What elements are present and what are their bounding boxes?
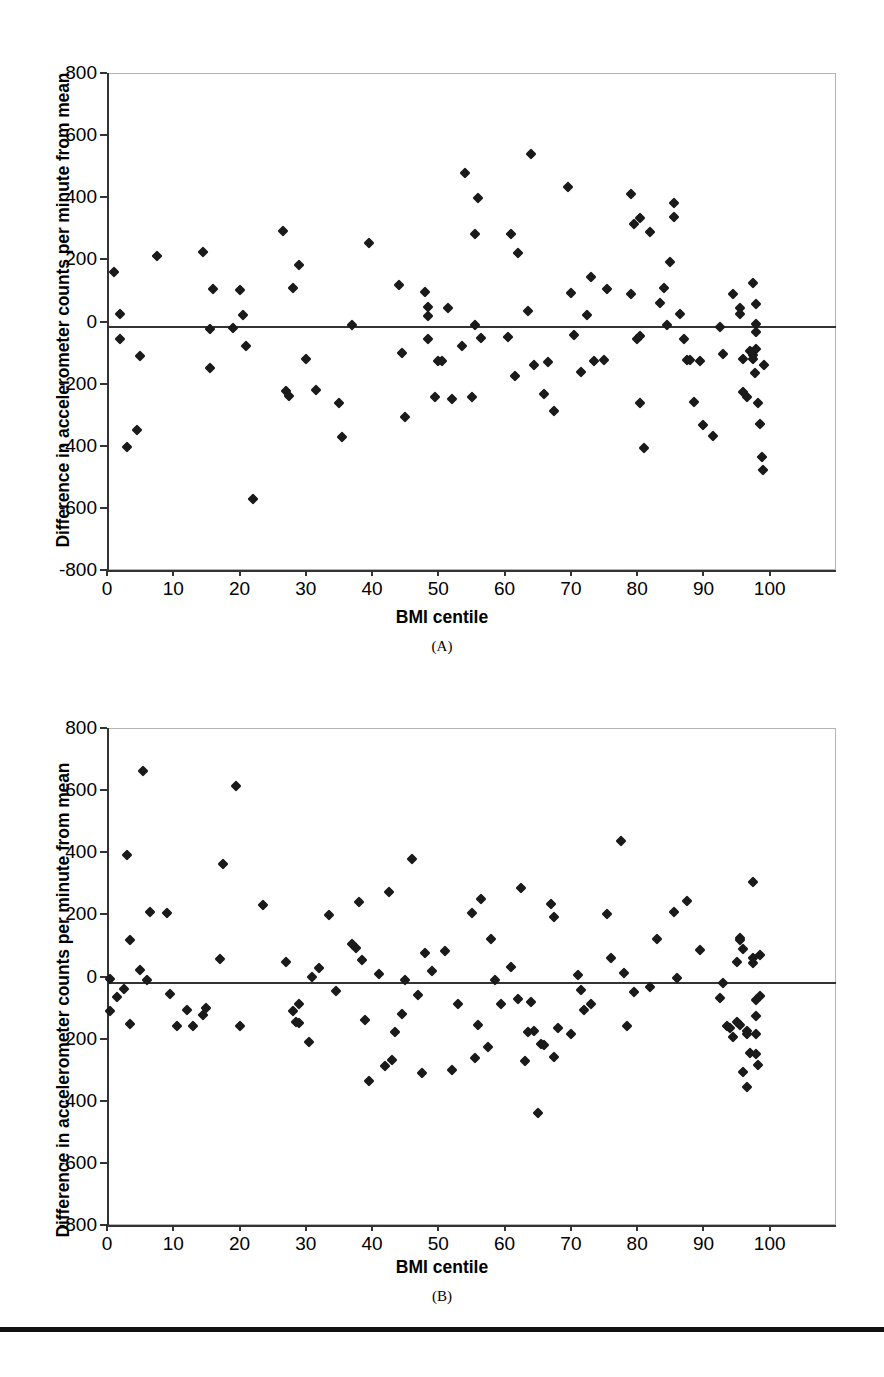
x-axis-tick-label: 90 bbox=[693, 578, 714, 600]
panel-a-x-axis-label: BMI centile bbox=[0, 607, 884, 628]
x-axis-tick-label: 50 bbox=[428, 1233, 449, 1255]
x-axis-tick bbox=[769, 1225, 771, 1231]
y-axis-tick bbox=[100, 445, 107, 447]
x-axis-tick-label: 100 bbox=[754, 578, 786, 600]
x-axis-tick-label: 60 bbox=[494, 578, 515, 600]
y-axis-tick-label: -400 bbox=[12, 435, 97, 457]
x-axis-tick-label: 70 bbox=[560, 578, 581, 600]
y-axis-tick bbox=[100, 258, 107, 260]
x-axis-tick-label: 0 bbox=[102, 578, 113, 600]
y-axis-tick bbox=[100, 1162, 107, 1164]
y-axis-tick bbox=[100, 1038, 107, 1040]
x-axis-tick-label: 10 bbox=[163, 578, 184, 600]
x-axis-tick-label: 60 bbox=[494, 1233, 515, 1255]
y-axis-tick-label: -400 bbox=[12, 1090, 97, 1112]
panel-b-tag: (B) bbox=[0, 1288, 884, 1305]
y-axis-tick bbox=[100, 727, 107, 729]
y-axis-tick bbox=[100, 789, 107, 791]
x-axis-tick bbox=[702, 1225, 704, 1231]
y-axis-tick bbox=[100, 851, 107, 853]
y-axis-tick bbox=[100, 913, 107, 915]
y-axis-tick-label: 0 bbox=[12, 311, 97, 333]
panel-b-plot-area bbox=[107, 728, 836, 1225]
y-axis-tick bbox=[100, 72, 107, 74]
y-axis-spine bbox=[107, 73, 109, 570]
y-axis-tick-label: 200 bbox=[12, 903, 97, 925]
y-axis-tick-label: 600 bbox=[12, 779, 97, 801]
x-axis-tick bbox=[769, 570, 771, 576]
x-axis-tick bbox=[636, 1225, 638, 1231]
y-axis-tick-label: 200 bbox=[12, 248, 97, 270]
x-axis-tick bbox=[570, 1225, 572, 1231]
x-axis-tick bbox=[570, 570, 572, 576]
y-axis-tick-label: 0 bbox=[12, 966, 97, 988]
y-axis-tick-label: -200 bbox=[12, 1028, 97, 1050]
x-axis-tick bbox=[106, 1225, 108, 1231]
footer-rule bbox=[0, 1327, 884, 1332]
x-axis-tick bbox=[702, 570, 704, 576]
y-axis-tick-label: -200 bbox=[12, 373, 97, 395]
x-axis-tick-label: 0 bbox=[102, 1233, 113, 1255]
x-axis-tick bbox=[239, 1225, 241, 1231]
panel-a-tag: (A) bbox=[0, 638, 884, 655]
y-axis-tick-label: 800 bbox=[12, 717, 97, 739]
x-axis-tick bbox=[371, 1225, 373, 1231]
x-axis-tick-label: 40 bbox=[362, 578, 383, 600]
y-axis-tick-label: 400 bbox=[12, 186, 97, 208]
x-axis-spine bbox=[107, 1225, 836, 1227]
y-axis-tick-label: 800 bbox=[12, 62, 97, 84]
x-axis-tick bbox=[437, 1225, 439, 1231]
x-axis-tick bbox=[437, 570, 439, 576]
x-axis-tick-label: 50 bbox=[428, 578, 449, 600]
x-axis-tick-label: 30 bbox=[295, 578, 316, 600]
x-axis-tick bbox=[172, 1225, 174, 1231]
y-axis-tick-label: -800 bbox=[12, 1214, 97, 1236]
x-axis-spine bbox=[107, 570, 836, 572]
x-axis-tick-label: 70 bbox=[560, 1233, 581, 1255]
x-axis-tick bbox=[504, 1225, 506, 1231]
y-axis-tick-label: -800 bbox=[12, 559, 97, 581]
y-axis-tick bbox=[100, 507, 107, 509]
x-axis-tick-label: 20 bbox=[229, 578, 250, 600]
x-axis-tick bbox=[636, 570, 638, 576]
x-axis-tick bbox=[504, 570, 506, 576]
x-axis-tick-label: 100 bbox=[754, 1233, 786, 1255]
panel-b-x-axis-label: BMI centile bbox=[0, 1257, 884, 1278]
x-axis-tick-label: 10 bbox=[163, 1233, 184, 1255]
y-axis-tick-label: 600 bbox=[12, 124, 97, 146]
y-axis-tick-label: -600 bbox=[12, 1152, 97, 1174]
x-axis-tick bbox=[172, 570, 174, 576]
x-axis-tick-label: 20 bbox=[229, 1233, 250, 1255]
y-axis-tick bbox=[100, 383, 107, 385]
panel-b-y-axis-label: Difference in accelerometer counts per m… bbox=[46, 730, 80, 1270]
y-axis-tick bbox=[100, 196, 107, 198]
x-axis-tick bbox=[305, 1225, 307, 1231]
y-axis-tick bbox=[100, 321, 107, 323]
x-axis-tick-label: 80 bbox=[627, 578, 648, 600]
y-axis-tick-label: -600 bbox=[12, 497, 97, 519]
x-axis-tick-label: 30 bbox=[295, 1233, 316, 1255]
x-axis-tick-label: 40 bbox=[362, 1233, 383, 1255]
panel-b: Difference in accelerometer counts per m… bbox=[0, 690, 884, 1310]
y-axis-tick-label: 400 bbox=[12, 841, 97, 863]
figure-container: Difference in accelerometer counts per m… bbox=[0, 0, 884, 1377]
y-axis-tick bbox=[100, 134, 107, 136]
x-axis-tick-label: 80 bbox=[627, 1233, 648, 1255]
x-axis-tick bbox=[239, 570, 241, 576]
panel-a: Difference in accelerometer counts per m… bbox=[0, 0, 884, 690]
x-axis-tick bbox=[371, 570, 373, 576]
x-axis-tick bbox=[305, 570, 307, 576]
x-axis-tick bbox=[106, 570, 108, 576]
y-axis-tick bbox=[100, 1100, 107, 1102]
x-axis-tick-label: 90 bbox=[693, 1233, 714, 1255]
